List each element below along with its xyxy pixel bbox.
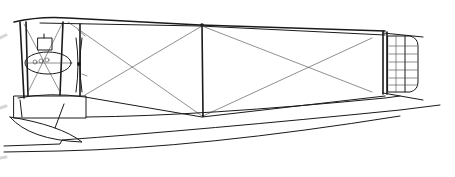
rudder [388,36,418,92]
wingtip-float [10,100,82,142]
upper-wing [14,18,385,36]
interplane-struts [20,22,204,117]
engine-nacelle [25,34,72,74]
bracing-wires [24,22,372,116]
hull [4,96,440,152]
edge-marks [0,35,6,158]
aircraft-drawing [0,0,455,177]
lower-wing [18,95,385,117]
propeller [76,38,82,92]
